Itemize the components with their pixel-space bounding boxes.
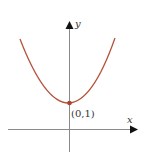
parabola-curve xyxy=(20,38,115,103)
y-axis-arrow-icon xyxy=(66,21,74,29)
parabola-chart: y x (0,1) xyxy=(0,0,149,153)
x-axis-arrow-icon xyxy=(130,126,138,134)
x-axis-label: x xyxy=(127,114,133,125)
vertex-label: (0,1) xyxy=(71,108,95,119)
y-axis-label: y xyxy=(74,18,81,29)
vertex-point xyxy=(67,101,72,106)
